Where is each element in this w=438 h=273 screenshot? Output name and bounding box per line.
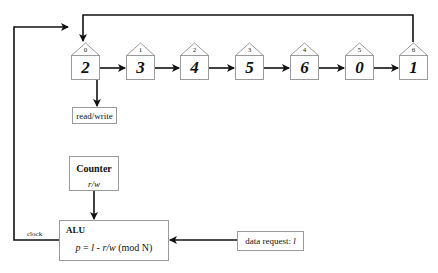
- read-write-box: read/write: [72, 107, 117, 124]
- data-request-label: data request:: [245, 236, 293, 246]
- cell-index: 4: [290, 46, 319, 54]
- buffer-cell: 3: [126, 55, 155, 80]
- cell-index: 6: [399, 46, 428, 54]
- cell-index: 5: [345, 46, 374, 54]
- cell-index: 1: [126, 46, 155, 54]
- clock-label: clock: [27, 230, 42, 238]
- cell-index: 0: [71, 46, 100, 54]
- alu-title: ALU: [66, 225, 85, 235]
- cell-index: 2: [180, 46, 209, 54]
- formula-rw: r/w: [102, 242, 115, 253]
- read-write-label: read/write: [76, 111, 112, 121]
- buffer-cell: 1: [399, 55, 428, 80]
- counter-value: r/w: [70, 179, 118, 189]
- clock-arrow: [14, 27, 68, 240]
- counter-box: Counter r/w: [69, 156, 119, 191]
- alu-box: ALU p = l - r/w (mod N): [59, 220, 169, 261]
- cell-index: 3: [235, 46, 264, 54]
- buffer-cell: 0: [345, 55, 374, 80]
- wrap-around-arrow: [83, 15, 413, 42]
- buffer-cell: 5: [235, 55, 264, 80]
- counter-title: Counter: [70, 163, 118, 174]
- alu-formula: p = l - r/w (mod N): [60, 242, 168, 253]
- formula-eq: =: [81, 242, 92, 253]
- formula-mod: (mod N): [116, 242, 153, 253]
- buffer-cell: 6: [290, 55, 319, 80]
- buffer-cell: 2: [71, 55, 100, 80]
- buffer-cell: 4: [180, 55, 209, 80]
- data-request-var: l: [293, 236, 296, 246]
- data-request-box: data request: l: [237, 231, 304, 251]
